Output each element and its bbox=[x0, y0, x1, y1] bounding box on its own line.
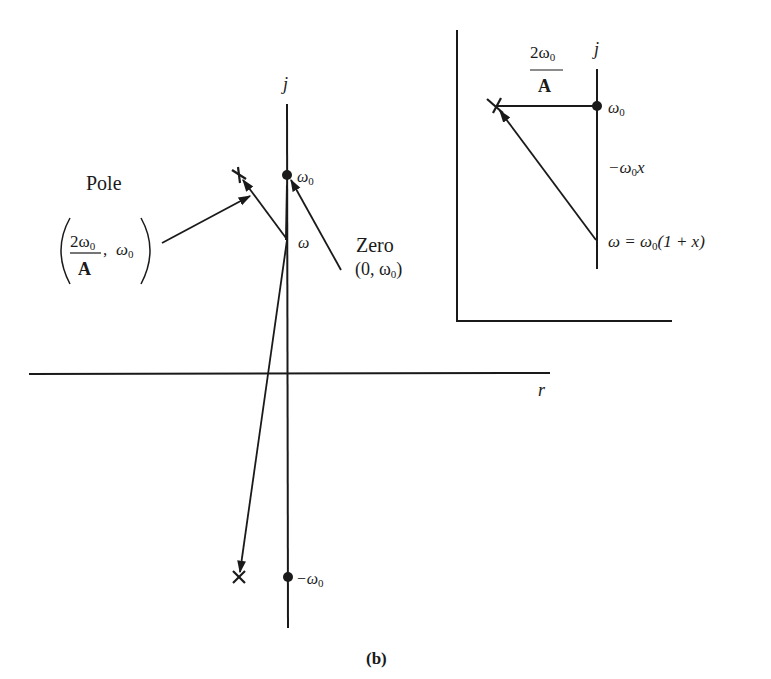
vector-to-lower-pole bbox=[240, 240, 287, 572]
zero-dot-lower bbox=[283, 572, 293, 582]
zero-dot-upper bbox=[282, 170, 292, 180]
real-axis-label: r bbox=[538, 380, 546, 400]
pole-zero-diagram: j r ω0 −ω0 ω Pole bbox=[0, 0, 771, 679]
zero-pointer-arrow bbox=[291, 180, 341, 270]
figure-caption: (b) bbox=[366, 649, 387, 668]
main-plane: j r ω0 −ω0 ω Pole bbox=[29, 74, 550, 628]
imaginary-axis bbox=[287, 104, 288, 628]
omega-point-label: ω bbox=[298, 234, 309, 251]
pole-coordinate: 2ω0 A , ω0 bbox=[61, 218, 150, 284]
svg-text:ω0: ω0 bbox=[116, 240, 134, 260]
inset-distance-label: 2ω0 A bbox=[530, 43, 563, 96]
zero-lower-label: −ω0 bbox=[296, 570, 324, 589]
svg-text:2ω0: 2ω0 bbox=[530, 43, 556, 63]
svg-text:A: A bbox=[78, 259, 91, 279]
imaginary-axis-label: j bbox=[281, 74, 288, 94]
pole-pointer-arrow bbox=[162, 196, 250, 243]
svg-text:,: , bbox=[103, 240, 107, 259]
zero-coordinate: (0, ω0) bbox=[355, 259, 402, 280]
vector-to-upper-zero bbox=[286, 185, 287, 240]
inset-omega-equation: ω = ω0(1 + x) bbox=[608, 232, 705, 252]
svg-text:2ω0: 2ω0 bbox=[70, 232, 96, 252]
inset-imaginary-axis-label: j bbox=[592, 39, 599, 59]
zero-label: Zero bbox=[356, 234, 394, 256]
inset-plane: j 2ω0 A ω0 −ω0x ω = ω0(1 + x) bbox=[456, 30, 705, 322]
pole-marker-lower bbox=[233, 571, 245, 583]
real-axis bbox=[29, 373, 550, 374]
inset-vector-to-pole bbox=[500, 111, 596, 240]
vector-to-upper-pole bbox=[243, 180, 286, 238]
zero-upper-label: ω0 bbox=[297, 168, 314, 187]
inset-zero-label: ω0 bbox=[608, 99, 625, 118]
inset-offset-label: −ω0x bbox=[608, 158, 645, 178]
pole-label: Pole bbox=[86, 172, 122, 194]
svg-text:A: A bbox=[538, 76, 551, 96]
